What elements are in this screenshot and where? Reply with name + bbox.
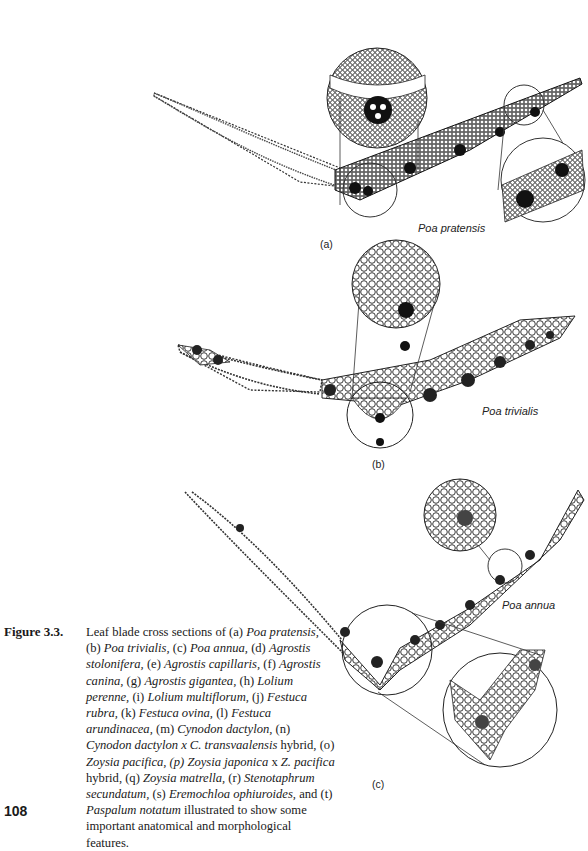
caption-segment: (m) bbox=[153, 722, 177, 736]
species-label-a: Poa pratensis bbox=[418, 222, 485, 234]
species-name: Zoysia matrella, bbox=[143, 771, 225, 785]
species-name: Poa pratensis, bbox=[246, 625, 319, 639]
caption-segment: (h) bbox=[236, 674, 257, 688]
species-name: Eremochloa ophiuroides, bbox=[169, 787, 296, 801]
page-number: 108 bbox=[4, 803, 27, 819]
species-name: Agrostis capillaris, bbox=[164, 657, 260, 671]
species-name: Poa trivialis, bbox=[104, 641, 170, 655]
species-name: Cynodon dactylon x C. transvaalensis bbox=[86, 738, 277, 752]
panel-label-b: (b) bbox=[372, 458, 385, 470]
species-name: Z. pacifica bbox=[281, 755, 335, 769]
caption-segment: hybrid, (o) bbox=[277, 738, 334, 752]
species-name: Cynodon dactylon, bbox=[177, 722, 272, 736]
species-name: Poa annua, bbox=[190, 641, 248, 655]
caption-segment: (b) bbox=[86, 641, 104, 655]
caption-segment: (r) bbox=[225, 771, 244, 785]
caption-segment: (c) bbox=[170, 641, 190, 655]
caption-segment: (k) bbox=[118, 706, 139, 720]
caption-segment: (i) bbox=[129, 690, 147, 704]
caption-segment: (f) bbox=[260, 657, 279, 671]
panel-label-a: (a) bbox=[320, 238, 333, 250]
caption-segment: (g) bbox=[123, 674, 144, 688]
species-name: Zoysia pacifica, (p) Zoysia japonica bbox=[86, 755, 268, 769]
caption-segment: (e) bbox=[144, 657, 164, 671]
caption-segment: (d) bbox=[248, 641, 269, 655]
species-name: Paspalum notatum bbox=[86, 803, 181, 817]
species-name: Festuca ovina, bbox=[139, 706, 213, 720]
caption-text: Leaf blade cross sections of (a) Poa pra… bbox=[86, 624, 336, 851]
caption-segment: hybrid, (q) bbox=[86, 771, 143, 785]
caption-segment: (l) bbox=[213, 706, 231, 720]
figure-number: Figure 3.3. bbox=[4, 624, 63, 640]
caption-segment: and (t) bbox=[296, 787, 332, 801]
caption-segment: Leaf blade cross sections of (a) bbox=[86, 625, 246, 639]
panel-label-c: (c) bbox=[372, 778, 384, 790]
caption-segment: (s) bbox=[149, 787, 169, 801]
species-label-b: Poa trivialis bbox=[482, 405, 538, 417]
caption-segment: (j) bbox=[249, 690, 267, 704]
caption-segment: (n) bbox=[272, 722, 290, 736]
caption-segment: x bbox=[268, 755, 281, 769]
species-label-c: Poa annua bbox=[502, 599, 555, 611]
species-name: Lolium multiflorum, bbox=[147, 690, 248, 704]
species-name: Agrostis gigantea, bbox=[144, 674, 236, 688]
